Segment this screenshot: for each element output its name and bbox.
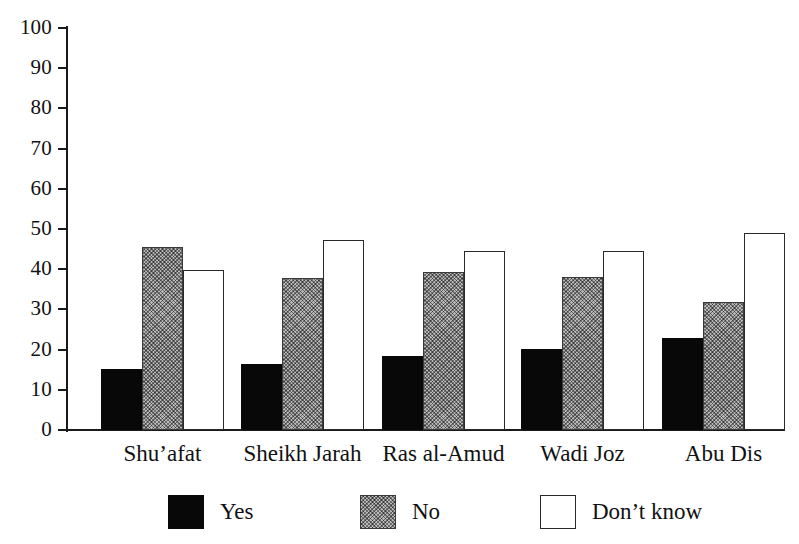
legend-swatch	[540, 495, 576, 529]
bar	[183, 270, 224, 430]
y-axis-tick-label: 90	[4, 57, 52, 78]
bar	[662, 338, 703, 430]
y-axis-tick-label: 0	[4, 419, 52, 440]
legend-swatch	[360, 495, 396, 529]
bar	[744, 233, 785, 430]
y-axis-tick-label: 100	[4, 17, 52, 38]
x-axis-label: Shu’afat	[81, 441, 244, 467]
bar-group	[662, 28, 785, 430]
y-axis-tick-label: 40	[4, 258, 52, 279]
bar-group	[101, 28, 224, 430]
bar-group	[382, 28, 505, 430]
y-axis-tick-label: 30	[4, 298, 52, 319]
bar	[241, 364, 282, 430]
bar	[521, 349, 562, 430]
y-axis-tick-label: 20	[4, 339, 52, 360]
plot-area	[66, 28, 785, 430]
bar	[282, 278, 323, 430]
chart-legend: YesNoDon’t know	[0, 492, 799, 536]
bar	[101, 369, 142, 431]
legend-label: Yes	[220, 499, 253, 525]
y-axis-tick-label: 60	[4, 178, 52, 199]
y-axis-tick-label: 80	[4, 97, 52, 118]
bar-group	[241, 28, 364, 430]
bar	[464, 251, 505, 430]
legend-item[interactable]: Don’t know	[540, 492, 702, 532]
bar	[142, 247, 183, 430]
bar	[423, 272, 464, 430]
bar-chart: 1009080706050403020100 Shu’afatSheikh Ja…	[0, 0, 799, 544]
legend-item[interactable]: Yes	[168, 492, 253, 532]
y-axis-tick-label: 70	[4, 138, 52, 159]
bar	[323, 240, 364, 430]
bar-group	[521, 28, 644, 430]
legend-swatch	[168, 495, 204, 529]
legend-item[interactable]: No	[360, 492, 440, 532]
y-axis-tick-label: 50	[4, 218, 52, 239]
y-axis-tick-label: 10	[4, 379, 52, 400]
bar	[382, 356, 423, 430]
bar	[703, 302, 744, 430]
x-axis-label: Abu Dis	[642, 441, 799, 467]
bar	[603, 251, 644, 430]
bar	[562, 277, 603, 430]
legend-label: Don’t know	[592, 499, 702, 525]
legend-label: No	[412, 499, 440, 525]
x-axis-label: Sheikh Jarah	[221, 441, 384, 467]
x-axis-label: Wadi Joz	[501, 441, 664, 467]
